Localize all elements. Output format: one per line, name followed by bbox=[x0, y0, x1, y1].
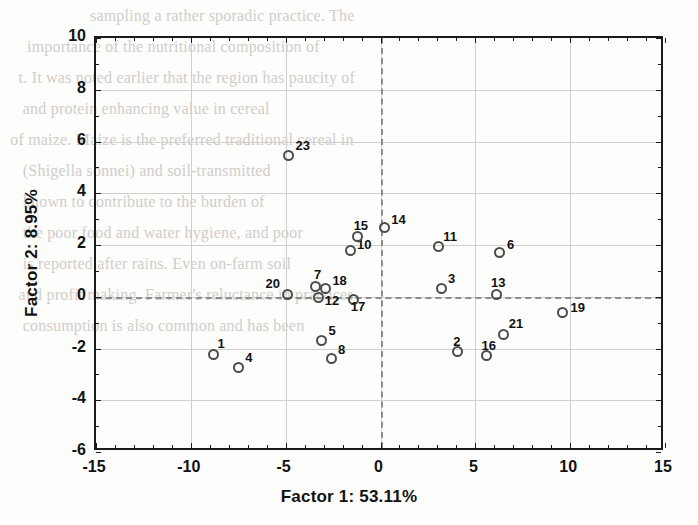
x-axis-minor-tick bbox=[646, 445, 647, 448]
data-point-23[interactable] bbox=[283, 150, 294, 161]
x-axis-minor-tick bbox=[267, 445, 268, 448]
x-axis-minor-tick-top bbox=[172, 38, 173, 41]
x-axis-minor-tick-top bbox=[324, 38, 325, 41]
x-axis-minor-tick-top bbox=[513, 38, 514, 41]
x-axis-tick-top bbox=[475, 38, 476, 43]
y-axis-tick bbox=[96, 297, 101, 298]
x-axis-minor-tick-top bbox=[229, 38, 230, 41]
y-axis-tick bbox=[96, 349, 101, 350]
y-axis-tick-label: 4 bbox=[42, 182, 86, 200]
data-point-label-21: 21 bbox=[509, 316, 523, 331]
y-axis-tick bbox=[96, 142, 101, 143]
y-axis-tick-right bbox=[656, 38, 661, 39]
y-axis-minor-tick-right bbox=[658, 64, 661, 65]
reference-line-vertical bbox=[381, 38, 383, 448]
x-axis-minor-tick-top bbox=[608, 38, 609, 41]
x-axis-minor-tick bbox=[418, 445, 419, 448]
y-axis-tick-right bbox=[656, 142, 661, 143]
data-point-label-11: 11 bbox=[443, 229, 457, 244]
y-axis-tick-label: 6 bbox=[42, 131, 86, 149]
grid-line-vertical bbox=[475, 38, 476, 448]
y-axis-tick bbox=[96, 193, 101, 194]
x-axis-minor-tick-top bbox=[115, 38, 116, 41]
y-axis-minor-tick-right bbox=[658, 323, 661, 324]
x-axis-minor-tick-top bbox=[267, 38, 268, 41]
data-point-13[interactable] bbox=[491, 289, 502, 300]
x-axis-minor-tick bbox=[608, 445, 609, 448]
data-point-10[interactable] bbox=[345, 245, 356, 256]
x-axis-minor-tick bbox=[229, 445, 230, 448]
data-point-label-12: 12 bbox=[325, 293, 339, 308]
y-axis-minor-tick bbox=[96, 64, 99, 65]
data-point-4[interactable] bbox=[233, 362, 244, 373]
y-axis-tick-right bbox=[656, 245, 661, 246]
y-axis-minor-tick-right bbox=[658, 374, 661, 375]
x-axis-minor-tick-top bbox=[210, 38, 211, 41]
grid-line-vertical bbox=[570, 38, 571, 448]
y-axis-tick-label: -6 bbox=[42, 441, 86, 459]
data-point-label-1: 1 bbox=[217, 336, 224, 351]
data-point-6[interactable] bbox=[494, 247, 505, 258]
x-axis-tick-top bbox=[381, 38, 382, 43]
y-axis-tick-right bbox=[656, 452, 661, 453]
x-axis-tick bbox=[96, 443, 97, 448]
x-axis-tick-label: 10 bbox=[559, 458, 577, 476]
plot-area bbox=[94, 36, 663, 450]
y-axis-minor-tick-right bbox=[658, 426, 661, 427]
y-axis-tick bbox=[96, 400, 101, 401]
data-point-5[interactable] bbox=[316, 335, 327, 346]
y-axis-tick-right bbox=[656, 193, 661, 194]
x-axis-minor-tick bbox=[172, 445, 173, 448]
x-axis-tick-label: 5 bbox=[469, 458, 478, 476]
y-axis-minor-tick bbox=[96, 116, 99, 117]
data-point-label-3: 3 bbox=[448, 271, 455, 286]
x-axis-tick-top bbox=[286, 38, 287, 43]
x-axis-minor-tick bbox=[153, 445, 154, 448]
x-axis-tick bbox=[475, 443, 476, 448]
x-axis-minor-tick-top bbox=[532, 38, 533, 41]
x-axis-minor-tick bbox=[343, 445, 344, 448]
x-axis-minor-tick bbox=[115, 445, 116, 448]
data-point-8[interactable] bbox=[326, 353, 337, 364]
grid-line-horizontal bbox=[96, 349, 661, 350]
data-point-label-18: 18 bbox=[332, 273, 346, 288]
x-axis-minor-tick-top bbox=[362, 38, 363, 41]
grid-line-horizontal bbox=[96, 90, 661, 91]
x-axis-minor-tick-top bbox=[551, 38, 552, 41]
grid-line-horizontal bbox=[96, 245, 661, 246]
grid-line-horizontal bbox=[96, 142, 661, 143]
data-point-label-4: 4 bbox=[245, 350, 252, 365]
y-axis-minor-tick-right bbox=[658, 271, 661, 272]
y-axis-tick-right bbox=[656, 349, 661, 350]
data-point-14[interactable] bbox=[379, 222, 390, 233]
x-axis-tick-top bbox=[665, 38, 666, 43]
data-point-label-8: 8 bbox=[338, 342, 345, 357]
x-axis-minor-tick bbox=[494, 445, 495, 448]
x-axis-tick-top bbox=[191, 38, 192, 43]
x-axis-minor-tick-top bbox=[134, 38, 135, 41]
data-point-label-6: 6 bbox=[507, 237, 514, 252]
x-axis-label: Factor 1: 53.11% bbox=[0, 487, 698, 507]
grid-line-vertical bbox=[191, 38, 192, 448]
data-point-label-19: 19 bbox=[570, 300, 584, 315]
data-point-3[interactable] bbox=[436, 283, 447, 294]
y-axis-minor-tick-right bbox=[658, 167, 661, 168]
x-axis-minor-tick-top bbox=[589, 38, 590, 41]
x-axis-minor-tick-top bbox=[494, 38, 495, 41]
data-point-18[interactable] bbox=[320, 283, 331, 294]
x-axis-minor-tick bbox=[210, 445, 211, 448]
x-axis-minor-tick bbox=[399, 445, 400, 448]
x-axis-tick-label: 15 bbox=[654, 458, 672, 476]
x-axis-minor-tick-top bbox=[437, 38, 438, 41]
data-point-label-23: 23 bbox=[295, 138, 309, 153]
x-axis-tick-label: 0 bbox=[374, 458, 383, 476]
x-axis-tick bbox=[665, 443, 666, 448]
x-axis-tick bbox=[286, 443, 287, 448]
data-point-label-5: 5 bbox=[329, 323, 336, 338]
y-axis-minor-tick bbox=[96, 426, 99, 427]
grid-line-horizontal bbox=[96, 400, 661, 401]
x-axis-minor-tick-top bbox=[399, 38, 400, 41]
scatter-plot-figure: Factor 1: 53.11% Factor 2: 8.95% -15-10-… bbox=[0, 0, 698, 525]
data-point-label-20: 20 bbox=[265, 276, 279, 291]
x-axis-minor-tick bbox=[305, 445, 306, 448]
